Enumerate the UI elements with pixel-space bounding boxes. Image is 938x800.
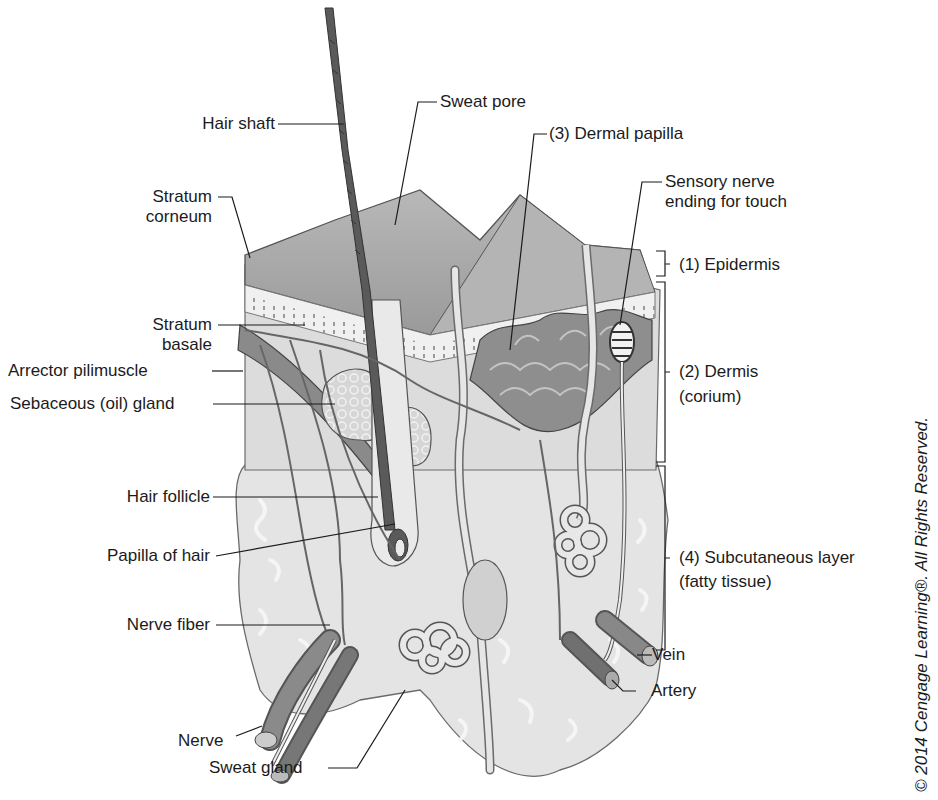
label-nerve: Nerve	[178, 731, 223, 751]
label-line: (fatty tissue)	[679, 572, 855, 592]
label-hair-shaft: Hair shaft	[120, 114, 275, 134]
label-dermis: (2) Dermis (corium)	[679, 362, 758, 407]
label-line: corneum	[90, 207, 212, 227]
label-stratum-corneum: Stratum corneum	[90, 187, 212, 227]
label-vein: Vein	[652, 645, 685, 665]
label-sweat-pore: Sweat pore	[440, 92, 526, 112]
label-arrector-pili: Arrector pilimuscle	[8, 361, 148, 381]
label-line: (2) Dermis	[679, 362, 758, 382]
label-dermal-papilla: (3) Dermal papilla	[549, 124, 683, 144]
label-sebaceous-gland: Sebaceous (oil) gland	[10, 394, 174, 414]
label-subcutaneous: (4) Subcutaneous layer (fatty tissue)	[679, 548, 855, 592]
label-line: ending for touch	[665, 192, 787, 212]
label-epidermis: (1) Epidermis	[679, 255, 780, 275]
label-line: Sensory nerve	[665, 172, 787, 192]
label-line: (corium)	[679, 387, 758, 407]
label-artery: Artery	[651, 681, 696, 701]
copyright-notice: © 2014 Cengage Learning®. All Rights Res…	[912, 417, 932, 792]
label-sensory-nerve: Sensory nerve ending for touch	[665, 172, 787, 212]
skin-diagram: Hair shaft Stratum corneum Stratum basal…	[0, 0, 938, 800]
label-line: Stratum	[90, 315, 212, 335]
label-stratum-basale: Stratum basale	[90, 315, 212, 355]
label-line: basale	[90, 335, 212, 355]
label-line: (4) Subcutaneous layer	[679, 548, 855, 568]
label-sweat-gland: Sweat gland	[209, 758, 303, 778]
label-nerve-fiber: Nerve fiber	[60, 615, 210, 635]
label-papilla-of-hair: Papilla of hair	[60, 546, 210, 566]
label-hair-follicle: Hair follicle	[60, 487, 210, 507]
label-line: Stratum	[90, 187, 212, 207]
